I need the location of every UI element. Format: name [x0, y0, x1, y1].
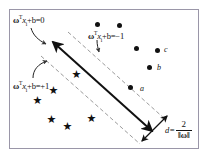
fraction-numerator: 2: [180, 120, 189, 130]
margin-line-lower: [41, 56, 140, 144]
equation-tail: +b=+1: [27, 81, 49, 91]
point-label-c: c: [164, 46, 168, 54]
point-label-a: a: [140, 85, 144, 93]
data-point-dot: [117, 23, 122, 28]
margin-width-arrow: [142, 116, 167, 141]
data-point-dot: [134, 46, 139, 51]
data-point-dot: [155, 48, 160, 53]
equation-tail: +b=0: [27, 15, 44, 25]
data-point-dot-b: [147, 65, 152, 70]
leader-margin-minus: [97, 40, 99, 52]
leader-margin-plus: [33, 61, 47, 78]
svm-margin-figure: ★ ★ ★ ★ ★ ★ ωTxi+b=0 ωTxi+b=−1 ωTxi+b=+1…: [0, 0, 211, 159]
distance-d-equals: d=: [165, 125, 175, 135]
distance-fraction: 2 ‖ω‖: [176, 120, 192, 140]
point-label-b: b: [157, 64, 161, 72]
margin-line-upper: [68, 32, 166, 120]
label-hyperplane-equation: ωTxi+b=0: [13, 16, 44, 25]
equation-tail: +b=−1: [102, 31, 124, 41]
label-margin-plus-equation: ωTxi+b=+1: [13, 82, 49, 91]
data-point-dot-a: [128, 85, 133, 90]
label-margin-distance: d= 2 ‖ω‖: [165, 120, 192, 140]
fraction-denominator: ‖ω‖: [176, 131, 192, 140]
label-margin-minus-equation: ωTxi+b=−1: [88, 32, 124, 41]
leader-hyperplane: [31, 28, 46, 44]
data-point-dot: [95, 22, 100, 27]
separating-hyperplane-line: [53, 42, 152, 131]
